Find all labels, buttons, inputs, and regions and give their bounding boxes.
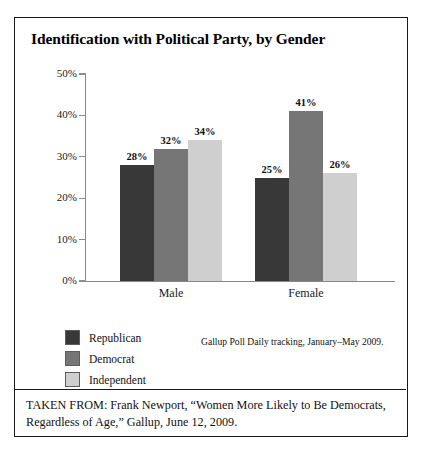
y-axis-tick	[79, 198, 86, 199]
source-note: Gallup Poll Daily tracking, January–May …	[201, 336, 384, 347]
bar-independent-male: 34%	[188, 74, 222, 281]
bar-independent-female: 26%	[323, 74, 357, 281]
legend-swatch-democrat	[65, 351, 80, 366]
y-axis-tick	[79, 73, 86, 74]
y-axis-tick	[79, 280, 86, 281]
x-axis-line	[85, 281, 395, 282]
bar-value-label: 41%	[296, 97, 317, 108]
footer-citation: TAKEN FROM: Frank Newport, “Women More L…	[26, 397, 398, 431]
legend-label: Democrat	[89, 353, 134, 365]
bar-fill	[289, 111, 323, 281]
chart-legend: RepublicanDemocratIndependent	[65, 327, 146, 390]
footer-divider	[15, 389, 406, 390]
bar-fill	[188, 140, 222, 281]
bar-value-label: 26%	[330, 159, 351, 170]
y-axis-label: 10%	[29, 234, 77, 245]
bar-fill	[154, 149, 188, 281]
bar-fill	[255, 178, 289, 282]
y-axis-label: 30%	[29, 151, 77, 162]
legend-item-independent: Independent	[65, 369, 146, 390]
y-axis-label: 20%	[29, 192, 77, 203]
bar-democrat-male: 32%	[154, 74, 188, 281]
category-label-male: Male	[120, 286, 222, 301]
bar-fill	[120, 165, 154, 281]
legend-swatch-independent	[65, 372, 80, 387]
y-axis-line	[85, 74, 86, 282]
bar-value-label: 28%	[127, 151, 148, 162]
y-axis-label: 40%	[29, 109, 77, 120]
bar-value-label: 34%	[195, 126, 216, 137]
legend-label: Republican	[89, 332, 141, 344]
figure-frame: Identification with Political Party, by …	[14, 17, 408, 437]
bar-republican-female: 25%	[255, 74, 289, 281]
legend-swatch-republican	[65, 330, 80, 345]
category-label-female: Female	[255, 286, 357, 301]
y-axis-tick	[79, 115, 86, 116]
legend-label: Independent	[89, 374, 146, 386]
y-axis-label: 50%	[29, 68, 77, 79]
y-axis-label: 0%	[29, 275, 77, 286]
chart-title: Identification with Political Party, by …	[31, 30, 325, 48]
legend-item-republican: Republican	[65, 327, 146, 348]
y-axis-tick	[79, 156, 86, 157]
plot-area: 0%10%20%30%40%50% 28%32%34%25%41%26% Mal…	[15, 64, 406, 296]
bar-value-label: 25%	[262, 164, 283, 175]
bar-fill	[323, 173, 357, 281]
bar-democrat-female: 41%	[289, 74, 323, 281]
bar-value-label: 32%	[161, 135, 182, 146]
figure-page: Identification with Political Party, by …	[0, 0, 424, 459]
y-axis-tick	[79, 239, 86, 240]
bar-republican-male: 28%	[120, 74, 154, 281]
legend-item-democrat: Democrat	[65, 348, 146, 369]
